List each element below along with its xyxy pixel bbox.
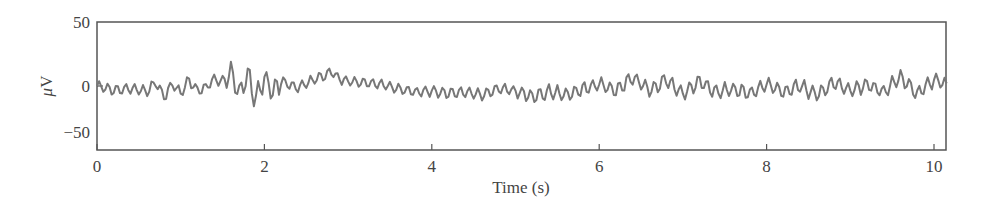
y-axis-label: μV <box>37 75 56 98</box>
x-axis-label: Time (s) <box>492 178 549 197</box>
x-tick-label: 10 <box>926 157 943 176</box>
eeg-trace <box>97 62 947 107</box>
x-tick-label: 8 <box>762 157 771 176</box>
x-tick-label: 4 <box>428 157 437 176</box>
y-tick-label: −50 <box>63 123 90 142</box>
eeg-chart: 0246810 500−50 Time (s) μV <box>0 0 983 209</box>
x-tick-label: 2 <box>260 157 269 176</box>
plot-frame <box>97 22 946 150</box>
y-tick-label: 50 <box>73 13 90 32</box>
x-tick-label: 0 <box>93 157 102 176</box>
x-tick-label: 6 <box>595 157 604 176</box>
x-axis-ticks: 0246810 <box>93 144 943 176</box>
y-tick-label: 0 <box>82 77 91 96</box>
